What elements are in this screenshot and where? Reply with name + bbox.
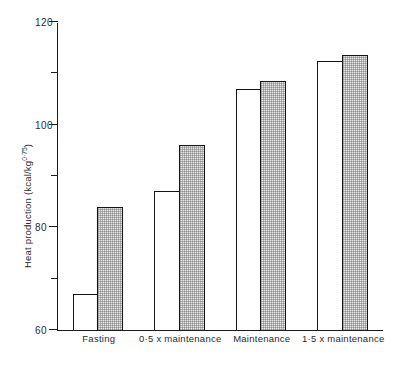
bar-stippled	[260, 81, 286, 330]
x-axis-category-label: 1·5 x maintenance	[302, 333, 384, 344]
y-axis-tick-label: 80	[35, 222, 45, 233]
x-axis-category-label: 0·5 x maintenance	[139, 333, 221, 344]
bar-stippled	[342, 55, 368, 330]
x-axis-category-label: Maintenance	[233, 333, 290, 344]
y-axis-minor-tick	[51, 72, 58, 73]
y-axis-label-container: Heat production (kcal/kg0·75)	[0, 0, 26, 340]
y-axis-label-text: Heat production (kcal/kg	[22, 161, 33, 268]
chart-figure: Heat production (kcal/kg0·75) 1201008060…	[0, 0, 404, 376]
y-axis-tick-label: 120	[35, 17, 45, 28]
y-axis-major-tick	[49, 226, 58, 227]
bar-open	[73, 294, 99, 330]
bar-stippled	[179, 145, 205, 330]
y-axis-tick-label: 100	[35, 119, 45, 130]
x-axis-category-label: Fasting	[82, 333, 115, 344]
y-axis-minor-tick	[51, 175, 58, 176]
y-axis-label-exponent: 0·75	[21, 147, 28, 161]
y-axis-major-tick	[49, 329, 58, 330]
plot-area: 1201008060Fasting0·5 x maintenanceMainte…	[57, 23, 383, 331]
y-axis-label-close: )	[22, 144, 33, 147]
bar-stippled	[97, 207, 123, 330]
y-axis-label: Heat production (kcal/kg0·75)	[21, 144, 33, 268]
y-axis-tick-label: 60	[35, 325, 45, 336]
bar-open	[236, 89, 262, 330]
y-axis-minor-tick	[51, 278, 58, 279]
bar-open	[154, 191, 180, 330]
bar-open	[317, 61, 343, 331]
